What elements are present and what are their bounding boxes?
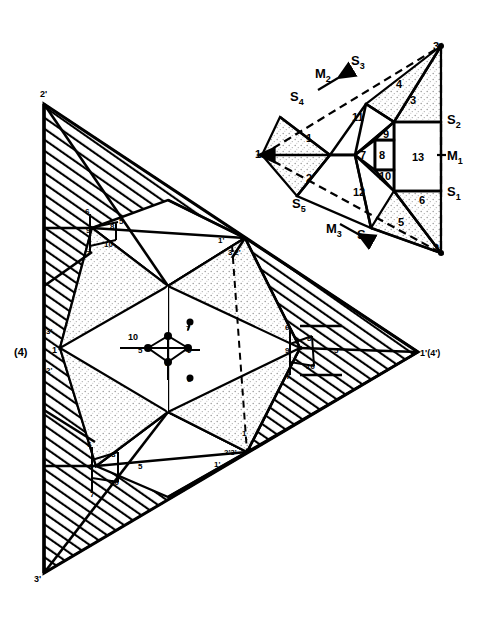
main-left-2-label: 2' <box>46 366 52 375</box>
cluster-center-node-4: 8 <box>165 359 170 368</box>
inset-region-1 <box>262 117 330 155</box>
cluster-bottom-node-2: 9 <box>89 462 94 471</box>
cluster-right-node-5: 7 <box>286 372 291 381</box>
cluster-right-node-1: 8 <box>307 334 312 343</box>
inset-region-11-label: 11 <box>352 111 364 123</box>
mirror-M2-label: M2 <box>315 66 331 84</box>
main-inner-label-5: 10 <box>128 332 138 342</box>
sigma-S1-label: S1 <box>447 184 461 202</box>
mirror-M1-label: M1 <box>447 148 463 166</box>
arrow-M3 <box>340 224 358 234</box>
sigma-S6-label: S6 <box>357 227 371 245</box>
inset-region-9-label: 9 <box>383 128 389 140</box>
sigma-S2-label: S2 <box>447 112 461 130</box>
inset-region-7-label: 7 <box>360 149 366 161</box>
cluster-top-node-4: 10 <box>104 240 113 249</box>
inset-vertex-1-label: 1 <box>255 148 261 160</box>
inset-region-10-label: 10 <box>379 170 391 182</box>
cluster-bottom-node-3: 5 <box>138 462 143 471</box>
cluster-center-node-3: 9 <box>187 346 192 355</box>
cluster-bottom-node-0: 6 <box>87 440 92 449</box>
cluster-top-node-3: 9 <box>86 226 91 235</box>
cluster-bottom-node-4: 10 <box>110 478 119 487</box>
sigma-S4-label: S4 <box>290 89 304 107</box>
cluster-bottom-node-1: 8 <box>111 450 116 459</box>
cluster-center-node-5: 6 <box>187 375 192 384</box>
cluster-top-node-0: 6 <box>85 207 90 216</box>
cluster-right-node-2: 9 <box>285 346 290 355</box>
inset-vertex-3-label: 3 <box>433 40 439 52</box>
cluster-top-node-1: 5 <box>119 217 124 226</box>
main-left-paren-label: (4) <box>14 346 28 358</box>
mirror-M3-label: M3 <box>326 221 342 239</box>
inset-region-8-label: 8 <box>379 149 385 161</box>
inset-vertex-2-label: 2 <box>433 242 439 254</box>
main-inner-label-1: 1' <box>218 236 224 245</box>
cluster-right-node-3: 5 <box>334 346 339 355</box>
inset-region-2-label: 2 <box>306 172 312 184</box>
cluster-top-node-5: 7 <box>86 249 91 258</box>
main-vertex-bottom-label: 3' <box>34 574 41 584</box>
main-vertex-top-label: 2' <box>40 89 47 99</box>
inset-triangle-group <box>258 43 446 256</box>
cluster-center-node-2: 7 <box>186 324 191 333</box>
cluster-bottom-node-5: 7 <box>90 490 95 499</box>
cluster-right-node-4: 10 <box>306 362 315 371</box>
inset-region-13-label: 13 <box>412 151 424 163</box>
cluster-top-node-2: 8 <box>110 222 115 231</box>
main-left-3-label: 3' <box>46 327 52 336</box>
cluster-right-node-0: 6 <box>285 323 290 332</box>
diagram-svg: 2' 3' (4) 1 3' 2' 1'(4') 1' 3'2' 2'3' 1'… <box>0 0 498 627</box>
inset-region-6-label: 6 <box>419 194 425 206</box>
inset-region-3-label: 3 <box>410 94 416 106</box>
cluster-center-node-1: 5 <box>138 346 143 355</box>
inset-region-1-label: 1 <box>306 132 312 144</box>
main-inner-label-6: 1 <box>242 429 247 438</box>
inset-region-4-label: 4 <box>396 78 403 90</box>
figure-root: 2' 3' (4) 1 3' 2' 1'(4') 1' 3'2' 2'3' 1'… <box>0 0 498 627</box>
main-left-1-label: 1 <box>52 345 57 355</box>
main-triangle-group <box>44 104 418 573</box>
inset-region-5-label: 5 <box>398 216 404 228</box>
main-right-label: 1'(4') <box>420 348 440 358</box>
main-inner-label-2: 3'2' <box>228 248 241 257</box>
main-inner-label-4: 1' <box>214 460 220 469</box>
sigma-S3-label: S3 <box>351 53 365 71</box>
main-inner-label-3: 2'3' <box>224 448 237 457</box>
inset-region-12-label: 12 <box>353 186 365 198</box>
